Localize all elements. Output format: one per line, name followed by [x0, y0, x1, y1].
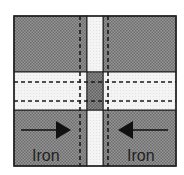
iron-junction-diagram: Iron Iron — [0, 0, 184, 175]
horizontal-gap-right — [103, 72, 176, 110]
center-junction — [87, 72, 103, 110]
horizontal-gap-left — [14, 72, 87, 110]
label-iron-right: Iron — [127, 147, 155, 164]
vertical-gap-bottom — [87, 110, 103, 166]
vertical-gap-top — [87, 16, 103, 72]
label-iron-left: Iron — [32, 147, 60, 164]
iron-block-top-right — [103, 16, 176, 72]
iron-block-top-left — [14, 16, 87, 72]
